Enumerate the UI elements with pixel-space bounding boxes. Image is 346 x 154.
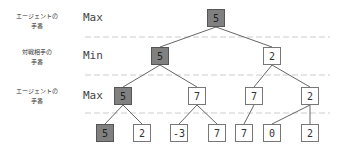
tree-leaf-7: 2 xyxy=(301,124,319,142)
tree-leaf-5: 7 xyxy=(235,124,253,142)
tree-node-max-2: 7 xyxy=(188,87,206,105)
tree-node-max-1: 5 xyxy=(114,87,132,105)
tree-node-root: 5 xyxy=(207,9,225,27)
tree-node-min-1: 5 xyxy=(151,47,169,65)
tree-leaf-2: 2 xyxy=(133,124,151,142)
tree-node-min-2: 2 xyxy=(263,47,281,65)
tree-leaf-4: 7 xyxy=(208,124,226,142)
tree-node-max-4: 2 xyxy=(301,87,319,105)
tree-leaf-1: 5 xyxy=(96,124,114,142)
tree-leaf-6: 0 xyxy=(263,124,281,142)
tree-leaf-3: -3 xyxy=(170,124,188,142)
tree-node-max-3: 7 xyxy=(245,87,263,105)
